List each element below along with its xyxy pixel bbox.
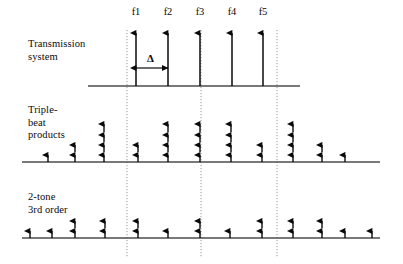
diagram-canvas: f1 f2 f3 f4 f5 Transmission system Tripl… <box>0 0 403 264</box>
diagram-vector-layer <box>0 0 403 264</box>
stack-group-two-tone-third-order <box>30 221 372 238</box>
vertical-guide-lines <box>127 30 277 258</box>
carrier-arrows-transmission-system <box>136 33 263 86</box>
stack-group-triple-beat-products <box>48 124 345 162</box>
